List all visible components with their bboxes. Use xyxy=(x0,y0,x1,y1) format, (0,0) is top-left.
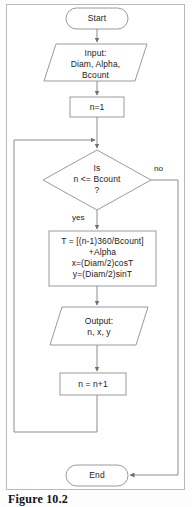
init-shape xyxy=(70,97,124,117)
edge-label-yes: yes xyxy=(72,213,84,222)
input-shape xyxy=(44,44,147,81)
figure-caption: Figure 10.2 xyxy=(8,492,178,507)
output-shape xyxy=(50,307,148,345)
flowchart-canvas xyxy=(0,0,192,507)
decision-shape xyxy=(43,150,151,210)
flowchart-figure: Start Input: Diam, Alpha, Bcount n=1 Is … xyxy=(0,0,192,507)
start-shape xyxy=(66,8,128,29)
edge-label-no: no xyxy=(154,164,163,173)
compute-shape xyxy=(49,231,156,286)
end-shape xyxy=(66,465,128,486)
increment-shape xyxy=(60,373,126,395)
